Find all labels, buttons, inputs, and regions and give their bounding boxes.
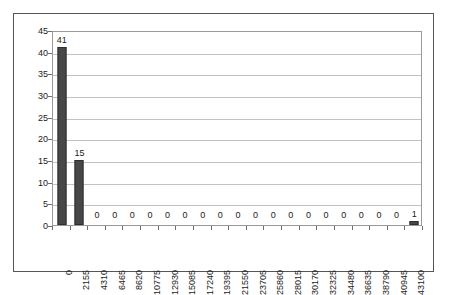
bar[interactable] (57, 47, 66, 225)
x-axis-tick-mark (352, 226, 353, 230)
x-axis-tick-label: 43100 (417, 270, 426, 295)
x-axis-tick-mark (228, 226, 229, 230)
x-axis-tick-label: 17240 (206, 270, 215, 295)
bar-slot: 0 (335, 32, 353, 225)
x-axis-tick-label: 38790 (382, 270, 391, 295)
bar-slot: 0 (370, 32, 388, 225)
bar[interactable] (75, 160, 84, 225)
x-axis-tick-label: 28015 (294, 270, 303, 295)
plot-area: 41150000000000000000001 (52, 31, 422, 226)
bar-value-label: 0 (288, 211, 293, 220)
bar-value-label: 41 (57, 36, 67, 45)
x-axis-tick-label: 34480 (347, 270, 356, 295)
x-axis-tick-label: 4310 (100, 270, 109, 290)
bar-slot: 0 (106, 32, 124, 225)
y-axis-tick-label: 15 (26, 157, 48, 166)
bar-slot: 0 (388, 32, 406, 225)
bar-slot: 0 (282, 32, 300, 225)
bar-slot: 0 (229, 32, 247, 225)
x-axis-tick-mark (299, 226, 300, 230)
x-axis-tick-mark (316, 226, 317, 230)
x-axis-tick-label: 23705 (259, 270, 268, 295)
x-axis-tick-mark (404, 226, 405, 230)
bar-slot: 41 (53, 32, 71, 225)
y-axis-tick-label: 5 (26, 200, 48, 209)
bar-value-label: 0 (165, 211, 170, 220)
x-axis-tick-label: 10775 (153, 270, 162, 295)
x-axis-tick-label: 36635 (364, 270, 373, 295)
x-axis-tick-mark (175, 226, 176, 230)
x-axis-tick-label: 2155 (82, 270, 91, 290)
x-axis-tick-mark (158, 226, 159, 230)
x-axis-tick-mark (70, 226, 71, 230)
bar-value-label: 0 (235, 211, 240, 220)
x-axis-tick-label: 25860 (276, 270, 285, 295)
bar-slot: 15 (71, 32, 89, 225)
x-axis-tick-mark (105, 226, 106, 230)
bar-slot: 0 (159, 32, 177, 225)
x-axis-tick-label: 15085 (188, 270, 197, 295)
bar-slot: 1 (405, 32, 423, 225)
bar-value-label: 15 (74, 149, 84, 158)
bar-value-label: 0 (253, 211, 258, 220)
bar-value-label: 0 (359, 211, 364, 220)
bar-slot: 0 (264, 32, 282, 225)
x-axis-tick-label: 8620 (135, 270, 144, 290)
bar-slot: 0 (212, 32, 230, 225)
x-axis-tick-label: 6465 (118, 270, 127, 290)
bar-value-label: 0 (306, 211, 311, 220)
bar-value-label: 0 (341, 211, 346, 220)
bar-value-label: 0 (147, 211, 152, 220)
x-axis-tick-mark (193, 226, 194, 230)
x-axis-tick-label: 21550 (241, 270, 250, 295)
x-axis-tick-label: 30170 (311, 270, 320, 295)
bar-slot: 0 (300, 32, 318, 225)
bar-value-label: 0 (112, 211, 117, 220)
bar-slot: 0 (194, 32, 212, 225)
x-axis-tick-mark (122, 226, 123, 230)
x-axis-tick-mark (263, 226, 264, 230)
bar-value-label: 1 (412, 210, 417, 219)
x-axis-tick-mark (369, 226, 370, 230)
x-axis-label-group: 0215543106465862010775129301508517240193… (52, 232, 422, 272)
bar-value-label: 0 (271, 211, 276, 220)
bar-value-label: 0 (218, 211, 223, 220)
x-axis-tick-mark (52, 226, 53, 230)
x-axis-tick-mark (211, 226, 212, 230)
bar-slot: 0 (141, 32, 159, 225)
x-axis-tick-label: 12930 (171, 270, 180, 295)
y-axis-label-group: 051015202530354045 (24, 31, 48, 226)
y-axis-tick-label: 30 (26, 92, 48, 101)
y-axis-tick-label: 20 (26, 135, 48, 144)
bar-slot: 0 (317, 32, 335, 225)
x-axis-tick-label: 40945 (400, 270, 409, 295)
bar-value-label: 0 (130, 211, 135, 220)
y-axis-tick-label: 40 (26, 49, 48, 58)
y-axis-tick-label: 45 (26, 27, 48, 36)
bar-value-label: 0 (376, 211, 381, 220)
x-axis-tick-label: 32325 (329, 270, 338, 295)
x-axis-tick-mark (334, 226, 335, 230)
bar[interactable] (410, 221, 419, 225)
bar-slot: 0 (176, 32, 194, 225)
bar-slot: 0 (353, 32, 371, 225)
x-axis-tick-label: 19395 (223, 270, 232, 295)
y-axis-tick-label: 25 (26, 114, 48, 123)
bar-value-label: 0 (394, 211, 399, 220)
bar-slot: 0 (247, 32, 265, 225)
x-axis-tick-mark (246, 226, 247, 230)
bar-value-label: 0 (324, 211, 329, 220)
bar-slot: 0 (123, 32, 141, 225)
y-axis-tick-label: 10 (26, 179, 48, 188)
bar-slot: 0 (88, 32, 106, 225)
x-axis-tick-mark (422, 226, 423, 230)
bar-value-label: 0 (200, 211, 205, 220)
x-axis-tick-label: 0 (65, 270, 74, 275)
x-axis-tick-mark (140, 226, 141, 230)
x-axis-tick-group (52, 226, 422, 231)
bar-value-label: 0 (183, 211, 188, 220)
x-axis-tick-mark (281, 226, 282, 230)
x-axis-tick-mark (87, 226, 88, 230)
bar-value-label: 0 (95, 211, 100, 220)
chart-outer-frame: 051015202530354045 411500000000000000000… (13, 13, 434, 272)
